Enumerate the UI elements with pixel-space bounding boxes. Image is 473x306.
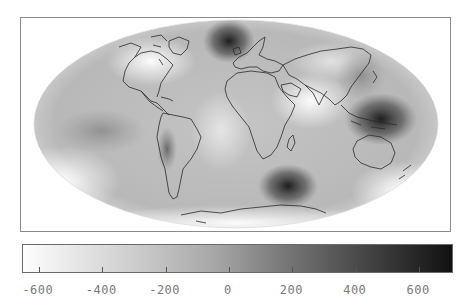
colorbar-tick xyxy=(419,267,420,272)
colorbar-tick-label: -600 xyxy=(22,283,53,297)
colorbar-tick-label: 200 xyxy=(280,283,303,297)
colorbar-tick-label: 0 xyxy=(224,283,232,297)
colorbar-tick-label: 600 xyxy=(407,283,430,297)
colorbar-tick xyxy=(39,267,40,272)
map-frame xyxy=(20,17,451,232)
colorbar-tick xyxy=(229,267,230,272)
colorbar-tick xyxy=(166,267,167,272)
colorbar-tick-label: -200 xyxy=(149,283,180,297)
mollweide-map xyxy=(21,18,452,233)
colorbar-tick-label: 400 xyxy=(343,283,366,297)
colorbar-tick xyxy=(102,267,103,272)
colorbar xyxy=(22,244,453,273)
colorbar-tick xyxy=(356,267,357,272)
colorbar-tick xyxy=(292,267,293,272)
field-shading xyxy=(21,19,451,233)
colorbar-tick-label: -400 xyxy=(86,283,117,297)
